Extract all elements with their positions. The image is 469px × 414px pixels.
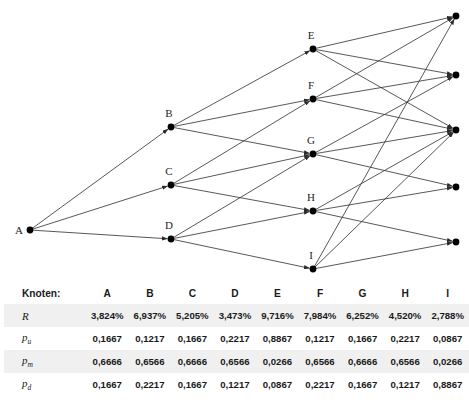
graph-node-C: [168, 182, 175, 189]
table-column-header-C: C: [171, 283, 214, 304]
table-cell: 0,1217: [214, 373, 257, 396]
graph-node-T5: [453, 239, 460, 246]
table-cell: 0,0266: [256, 350, 299, 373]
table-cell: 0,1667: [341, 373, 384, 396]
table-column-header-F: F: [299, 283, 342, 304]
graph-node-label-D: D: [165, 219, 173, 231]
table-column-header-H: H: [384, 283, 427, 304]
table-cell: 0,2217: [384, 327, 427, 350]
table-cell: 0,8867: [256, 327, 299, 350]
trinomial-tree-diagram: ABCDEFGHI: [0, 0, 469, 282]
table-cell: 4,520%: [384, 304, 427, 327]
graph-node-label-H: H: [307, 191, 315, 203]
footer-faint-line: [0, 399, 469, 410]
table-column-header-G: G: [341, 283, 384, 304]
table-cell: 0,1667: [86, 373, 129, 396]
graph-edge-A-D: [33, 230, 167, 239]
graph-node-H: [310, 208, 317, 215]
row-symbol: pu: [22, 331, 31, 343]
row-symbol: R: [22, 310, 29, 322]
graph-edge-A-B: [33, 129, 169, 228]
graph-node-label-F: F: [308, 79, 314, 91]
table-cell: 0,6666: [171, 350, 214, 373]
graph-edge-B-E: [174, 51, 310, 126]
row-symbol-subscript: d: [28, 383, 32, 392]
table-row: pd0,16670,22170,16670,12170,08670,22170,…: [4, 373, 469, 396]
row-symbol-subscript: m: [28, 360, 33, 369]
graph-node-I: [310, 266, 317, 273]
table-cell: 3,824%: [86, 304, 129, 327]
table-row-header-R: R: [4, 304, 86, 327]
graph-edge-F-T2: [316, 76, 452, 99]
graph-node-label-C: C: [165, 165, 172, 177]
table-cell: 0,6666: [341, 350, 384, 373]
table-column-header-A: A: [86, 283, 129, 304]
table-cell: 6,937%: [129, 304, 172, 327]
graph-node-label-G: G: [307, 134, 315, 146]
table-cell: 7,984%: [299, 304, 342, 327]
table-cell: 0,1217: [384, 373, 427, 396]
table-cell: 5,205%: [171, 304, 214, 327]
table-cell: 0,6566: [299, 350, 342, 373]
table-cell: 0,0867: [426, 327, 469, 350]
table-head: Knoten: ABCDEFGHI: [4, 283, 469, 304]
graph-node-labels: ABCDEFGHI: [15, 29, 315, 261]
graph-node-T3: [453, 127, 460, 134]
table-cell: 0,1667: [171, 327, 214, 350]
table-body: R3,824%6,937%5,205%3,473%9,716%7,984%6,2…: [4, 304, 469, 396]
graph-edge-C-H: [174, 186, 309, 211]
table-corner-label: Knoten:: [4, 283, 86, 304]
table-column-header-I: I: [426, 283, 469, 304]
table-row: pm0,66660,65660,66660,65660,02660,65660,…: [4, 350, 469, 373]
graph-svg: ABCDEFGHI: [0, 0, 469, 282]
graph-node-F: [310, 96, 317, 103]
table-cell: 0,2217: [214, 327, 257, 350]
graph-node-G: [310, 151, 317, 158]
table-cell: 0,1217: [129, 327, 172, 350]
table-row: R3,824%6,937%5,205%3,473%9,716%7,984%6,2…: [4, 304, 469, 327]
table-cell: 0,0867: [256, 373, 299, 396]
table-cell: 0,6666: [86, 350, 129, 373]
graph-node-label-A: A: [15, 224, 23, 236]
table-column-header-B: B: [129, 283, 172, 304]
graph-edge-H-T4: [316, 188, 452, 211]
table-column-header-E: E: [256, 283, 299, 304]
table-cell: 3,473%: [214, 304, 257, 327]
table-header-row: Knoten: ABCDEFGHI: [4, 283, 469, 304]
graph-edges: [33, 17, 455, 269]
table-row-header-pd: pd: [4, 373, 86, 396]
graph-node-T4: [453, 184, 460, 191]
graph-edge-B-G: [174, 128, 309, 154]
row-symbol-subscript: u: [28, 337, 32, 346]
table-cell: 0,6566: [214, 350, 257, 373]
table-cell: 0,2217: [299, 373, 342, 396]
graph-node-label-B: B: [165, 107, 172, 119]
table-cell: 0,1217: [299, 327, 342, 350]
graph-edge-C-G: [174, 155, 309, 185]
graph-node-D: [168, 236, 175, 243]
table-row-header-pu: pu: [4, 327, 86, 350]
parameter-table: Knoten: ABCDEFGHI R3,824%6,937%5,205%3,4…: [0, 283, 469, 396]
table-cell: 6,252%: [341, 304, 384, 327]
table-cell: 2,788%: [426, 304, 469, 327]
graph-node-B: [168, 124, 175, 131]
graph-node-T1: [453, 13, 460, 20]
table-cell: 0,1667: [86, 327, 129, 350]
figure-page: ABCDEFGHI Knoten: ABCDEFGHI R3,824%6,937…: [0, 0, 469, 414]
table-cell: 0,6566: [129, 350, 172, 373]
graph-node-label-E: E: [308, 29, 315, 41]
graph-edge-A-C: [33, 186, 168, 229]
table: Knoten: ABCDEFGHI R3,824%6,937%5,205%3,4…: [4, 283, 469, 396]
table-cell: 0,6566: [384, 350, 427, 373]
cut-off-footer-text: [0, 399, 469, 414]
table-cell: 9,716%: [256, 304, 299, 327]
graph-node-A: [27, 227, 34, 234]
graph-node-T2: [453, 72, 460, 79]
graph-node-E: [310, 46, 317, 53]
graph-edge-D-I: [174, 240, 309, 269]
table-cell: 0,1667: [171, 373, 214, 396]
table-cell: 0,8867: [426, 373, 469, 396]
graph-node-label-I: I: [309, 249, 313, 261]
table-cell: 0,0266: [426, 350, 469, 373]
row-symbol: pd: [22, 377, 31, 389]
